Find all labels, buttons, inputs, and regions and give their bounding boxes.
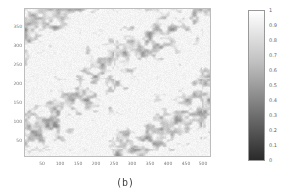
x-tick-label: 350 <box>141 161 159 166</box>
x-tick-label: 500 <box>194 161 212 166</box>
x-tick-label: 250 <box>105 161 123 166</box>
x-tick-label: 100 <box>51 161 69 166</box>
colorbar-tick-label: 0.5 <box>269 83 277 88</box>
y-tick-label: 50 <box>4 138 22 143</box>
colorbar-tick-label: 0.1 <box>269 143 277 148</box>
x-tick-label: 400 <box>159 161 177 166</box>
colorbar-tick-label: 0.2 <box>269 128 277 133</box>
x-tick-label: 200 <box>87 161 105 166</box>
colorbar-tick-label: 0 <box>269 158 272 163</box>
y-tick-label: 300 <box>4 43 22 48</box>
colorbar-tick-label: 0.4 <box>269 98 277 103</box>
colorbar <box>248 10 265 161</box>
colorbar-tick-label: 1 <box>269 8 272 13</box>
colorbar-tick-label: 0.3 <box>269 113 277 118</box>
y-tick-label: 200 <box>4 81 22 86</box>
heatmap-image <box>25 9 210 156</box>
colorbar-tick-label: 0.9 <box>269 23 277 28</box>
y-tick-label: 350 <box>4 24 22 29</box>
figure-caption: (b) <box>110 177 140 188</box>
x-tick-label: 450 <box>177 161 195 166</box>
x-tick-label: 300 <box>123 161 141 166</box>
colorbar-tick-label: 0.6 <box>269 68 277 73</box>
colorbar-tick-label: 0.8 <box>269 38 277 43</box>
y-tick-label: 250 <box>4 62 22 67</box>
y-tick-label: 100 <box>4 119 22 124</box>
x-tick-label: 150 <box>69 161 87 166</box>
y-tick-label: 150 <box>4 100 22 105</box>
colorbar-tick-label: 0.7 <box>269 53 277 58</box>
x-tick-label: 50 <box>33 161 51 166</box>
